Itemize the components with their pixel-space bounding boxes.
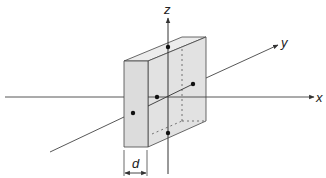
y-axis-upper — [206, 45, 278, 78]
top-face-point — [166, 45, 170, 49]
y-axis-lower — [50, 117, 124, 152]
front-face-point — [131, 111, 135, 115]
bottom-face-point — [166, 131, 170, 135]
slab-front-face — [124, 61, 148, 147]
back-face-point — [191, 82, 195, 86]
slab-coordinate-diagram: z y x d — [0, 0, 326, 178]
z-axis-label: z — [163, 2, 171, 17]
thickness-label: d — [132, 156, 140, 171]
x-axis-label: x — [315, 90, 323, 105]
y-axis-label: y — [280, 35, 289, 50]
center-point — [155, 95, 159, 99]
